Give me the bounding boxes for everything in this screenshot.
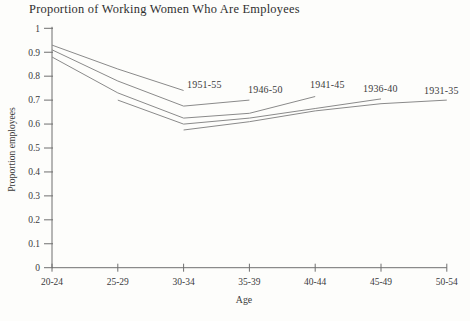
series-line-1936-40 [118,99,381,124]
series-label-1936-40: 1936-40 [363,83,398,94]
series-label-1941-45: 1941-45 [310,79,345,90]
y-tick-label: 0.9 [28,48,40,58]
series-label-1946-50: 1946-50 [248,84,283,95]
y-tick-label: 1 [35,24,40,34]
y-tick-label: 0.7 [28,95,40,105]
y-tick-label: 0.4 [28,167,40,177]
y-tick-label: 0.8 [28,71,40,81]
x-tick-label: 35-39 [238,277,260,287]
series-label-1951-55: 1951-55 [187,79,222,90]
plot-area: 10.90.80.70.60.50.40.30.20.1020-2425-293… [0,0,470,321]
x-tick-label: 40-44 [304,277,326,287]
x-tick-label: 20-24 [41,277,63,287]
figure-container: Proportion of Working Women Who Are Empl… [0,0,470,321]
y-tick-label: 0 [35,263,40,273]
series-line-1946-50 [52,50,249,106]
x-axis-title: Age [227,294,261,305]
x-tick-label: 30-34 [173,277,195,287]
y-tick-label: 0.5 [28,143,40,153]
y-tick-label: 0.1 [28,239,40,249]
y-axis-title: Proportion employees [6,102,17,198]
x-tick-label: 50-54 [436,277,458,287]
y-tick-label: 0.2 [28,215,40,225]
y-tick-label: 0.3 [28,191,40,201]
x-tick-label: 45-49 [370,277,392,287]
x-tick-label: 25-29 [107,277,129,287]
series-label-1931-35: 1931-35 [424,85,459,96]
y-tick-label: 0.6 [28,119,40,129]
